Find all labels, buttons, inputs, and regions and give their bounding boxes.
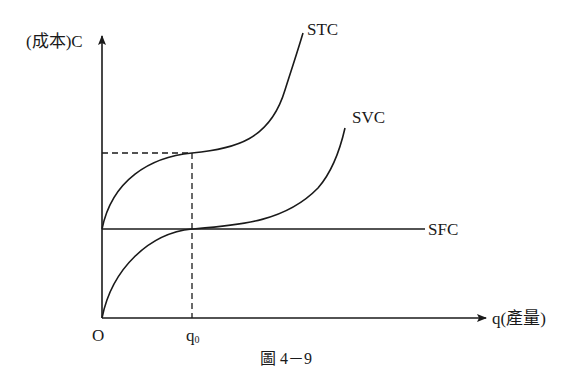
origin-label: O: [92, 327, 104, 344]
q0-subscript: 0: [195, 334, 200, 345]
y-axis-label: (成本)C: [26, 33, 83, 50]
sfc-label: SFC: [428, 221, 458, 238]
stc-curve: [102, 33, 303, 229]
q0-main: q: [186, 326, 195, 345]
q0-label: q0: [186, 327, 200, 345]
x-axis-label: q(產量): [492, 310, 546, 327]
cost-curves-diagram: [0, 0, 577, 388]
figure-caption: 圖 4－9: [260, 351, 312, 367]
svc-curve: [102, 128, 345, 318]
svc-label: SVC: [352, 109, 385, 126]
stc-label: STC: [307, 21, 338, 38]
